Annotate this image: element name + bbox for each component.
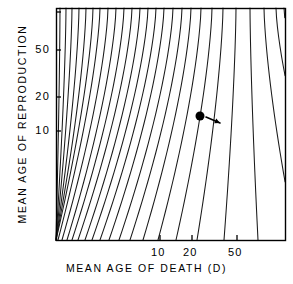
y-axis-title: MEAN AGE OF REPRODUCTION: [16, 16, 28, 232]
contour-line-group: [56, 8, 285, 240]
x-tick-label: 20: [183, 246, 198, 258]
figure-contour-plot: 50 20 10 10 20 50 MEAN AGE OF REPRODUCTI…: [0, 0, 293, 284]
x-axis-title: MEAN AGE OF DEATH (D): [0, 262, 293, 274]
x-tick-label: 50: [228, 246, 243, 258]
x-tick-label: 10: [151, 246, 166, 258]
